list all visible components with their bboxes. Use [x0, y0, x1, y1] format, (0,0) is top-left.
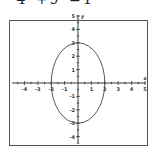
x-tick-label: -3: [35, 86, 41, 92]
ticks: [18, 16, 145, 143]
axes: [12, 15, 146, 143]
y-tick-label: -1: [69, 93, 75, 99]
y-tick-label: 5: [72, 13, 76, 19]
y-tick-label: 2: [72, 53, 76, 59]
x-axis-label: x: [142, 75, 147, 81]
x-tick-label: 3: [116, 86, 120, 92]
y-tick-label: -4: [69, 134, 75, 140]
x-tick-label: 1: [90, 86, 94, 92]
x-tick-label: 5: [143, 86, 147, 92]
x-tick-label: -4: [22, 86, 28, 92]
y-tick-label: 4: [72, 26, 76, 32]
y-tick-label: 1: [72, 67, 76, 73]
ellipse-graph: -4-3-2-112345-4-3-2-112345xy: [0, 0, 153, 148]
x-tick-label: -1: [62, 86, 68, 92]
y-tick-label: -2: [69, 107, 75, 113]
x-tick-label: 4: [130, 86, 134, 92]
y-axis-label: y: [81, 13, 85, 20]
tick-labels: -4-3-2-112345-4-3-2-112345xy: [22, 13, 148, 140]
